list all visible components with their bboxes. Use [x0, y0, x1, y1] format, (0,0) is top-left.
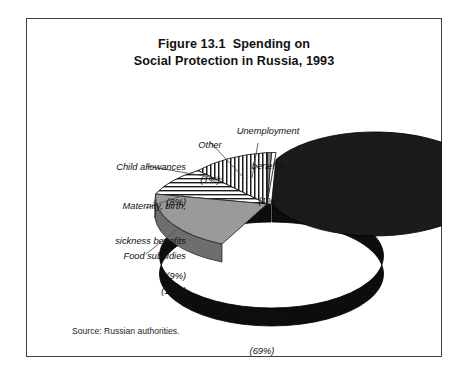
callout-unemployment-label-line-1: Unemployment	[222, 126, 314, 138]
callout-pensions: Pensions (69%)	[212, 288, 312, 379]
callout-food-subsidies-value: (13%)	[38, 286, 186, 298]
callout-unemployment-value: (1%)	[222, 196, 314, 208]
callout-unemployment-label-line-2: benefits	[222, 161, 314, 173]
callout-unemployment-benefits: Unemployment benefits (1%)	[222, 103, 314, 231]
callout-maternity-label-line-1: Maternity, birth,	[38, 201, 186, 213]
callout-pensions-label: Pensions	[212, 311, 312, 323]
callout-pensions-value: (69%)	[212, 346, 312, 358]
source-note: Source: Russian authorities.	[72, 326, 179, 336]
callout-child-allowances-label: Child allowances	[58, 162, 186, 174]
figure-root: Figure 13.1 Spending on Social Protectio…	[0, 0, 466, 379]
callout-food-subsidies-label: Food subsidies	[38, 251, 186, 263]
callout-food-subsidies: Food subsidies (13%)	[38, 228, 186, 321]
